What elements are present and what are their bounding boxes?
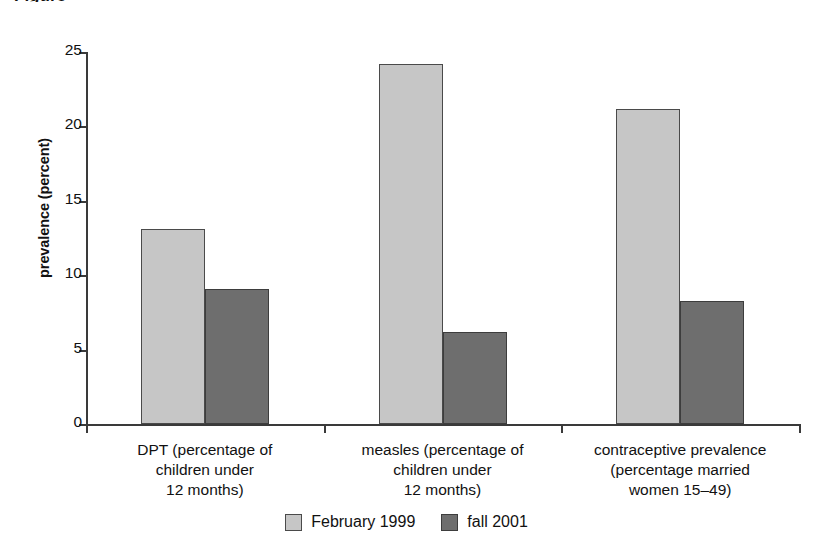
legend-item[interactable]: fall 2001	[441, 513, 528, 531]
bar	[443, 332, 507, 424]
y-tick-label: 5	[73, 339, 82, 357]
y-tick-label: 0	[73, 413, 82, 431]
legend-swatch	[285, 514, 302, 531]
x-tick-mark	[324, 424, 326, 433]
x-tick-mark	[86, 424, 88, 433]
bar	[379, 64, 443, 424]
x-axis-line	[86, 424, 799, 426]
category-label: DPT (percentage ofchildren under12 month…	[86, 440, 324, 500]
category-label-line: children under	[324, 460, 562, 480]
y-tick-label: 20	[65, 115, 82, 133]
category-label-line: women 15–49)	[561, 480, 799, 500]
category-label-line: 12 months)	[324, 480, 562, 500]
category-label-line: DPT (percentage of	[86, 440, 324, 460]
y-axis-title: prevalence (percent)	[36, 78, 52, 338]
category-label: measles (percentage ofchildren under12 m…	[324, 440, 562, 500]
y-tick-label: 10	[65, 264, 82, 282]
bar	[141, 229, 205, 424]
bar	[680, 301, 744, 425]
legend-label: February 1999	[311, 513, 415, 531]
y-tick-label: 15	[65, 190, 82, 208]
legend-swatch	[441, 514, 458, 531]
x-tick-mark	[799, 424, 801, 433]
bar	[205, 289, 269, 424]
chart-legend: February 1999fall 2001	[0, 513, 813, 531]
category-label-line: children under	[86, 460, 324, 480]
category-label-line: (percentage married	[561, 460, 799, 480]
plot-area: 0510152025	[86, 52, 799, 424]
bar	[616, 109, 680, 424]
x-tick-mark	[561, 424, 563, 433]
category-label-line: contraceptive prevalence	[561, 440, 799, 460]
category-label-line: 12 months)	[86, 480, 324, 500]
y-tick-label: 25	[65, 41, 82, 59]
legend-item[interactable]: February 1999	[285, 513, 415, 531]
category-label-line: measles (percentage of	[324, 440, 562, 460]
category-label: contraceptive prevalence(percentage marr…	[561, 440, 799, 500]
y-axis-line	[86, 52, 88, 424]
legend-label: fall 2001	[467, 513, 528, 531]
figure-title-fragment: Figure	[14, 0, 66, 2]
figure-container: Figure prevalence (percent) 0510152025 D…	[0, 0, 813, 551]
